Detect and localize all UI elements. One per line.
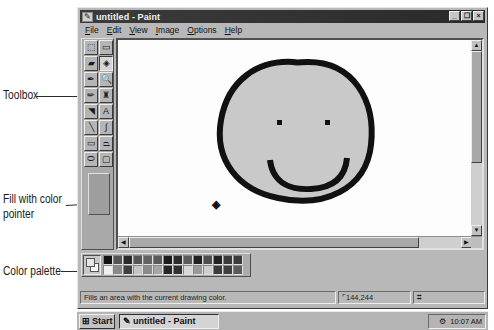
pencil-tool[interactable]: ✏ [84, 88, 98, 103]
toolbox: ⬚ ▭ ▰ ◈ ✒ 🔍 ✏ ♜ ◥ A ╲ ∫ ▭ ⏢ ⬭ ▢ [81, 38, 114, 250]
tool-options-box[interactable] [88, 173, 110, 215]
color-swatch[interactable] [193, 255, 203, 265]
maximize-button[interactable]: ❐ [461, 11, 472, 21]
rectangle-tool[interactable]: ▭ [84, 136, 98, 151]
status-bar: Fills an area with the current drawing c… [80, 291, 485, 305]
color-swatch[interactable] [223, 255, 233, 265]
color-swatch[interactable] [113, 255, 123, 265]
scrollbar-corner [471, 237, 482, 248]
taskbar: ⊞ Start ✎ untitled - Paint ⚙ 10:07 AM [77, 311, 488, 330]
ellipse-tool[interactable]: ⬭ [84, 152, 98, 167]
brush-tool[interactable]: ♜ [99, 88, 113, 103]
text-tool[interactable]: A [99, 104, 113, 119]
callout-fill-line1: Fill with color [3, 192, 62, 207]
drawing-canvas[interactable]: ◈ [118, 40, 472, 236]
color-swatch[interactable] [113, 265, 123, 275]
color-swatch[interactable] [153, 265, 163, 275]
menu-file[interactable]: File [85, 25, 99, 35]
windows-logo-icon: ⊞ [82, 315, 90, 328]
menu-bar: File Edit View Image Options Help [80, 24, 485, 36]
color-swatch[interactable] [123, 255, 133, 265]
callout-toolbox: Toolbox [3, 88, 38, 103]
foreground-color-swatch [86, 258, 95, 267]
color-swatch[interactable] [193, 265, 203, 275]
color-swatch[interactable] [213, 255, 223, 265]
swatch-grid [103, 255, 243, 275]
fill-with-color-cursor: ◈ [212, 198, 220, 211]
vertical-scrollbar[interactable]: ▲ ▼ [471, 40, 482, 236]
color-swatch[interactable] [233, 265, 243, 275]
airbrush-tool[interactable]: ◥ [84, 104, 98, 119]
title-bar[interactable]: ✎ untitled - Paint _ ❐ × [80, 10, 485, 23]
line-tool[interactable]: ╲ [84, 120, 98, 135]
minimize-button[interactable]: _ [449, 11, 460, 21]
status-coordinates: ⌜144,244 [338, 291, 411, 304]
rounded-rectangle-tool[interactable]: ▢ [99, 152, 113, 167]
color-swatch[interactable] [153, 255, 163, 265]
close-button[interactable]: × [473, 11, 484, 21]
menu-view[interactable]: View [129, 25, 147, 35]
magnifier-tool[interactable]: 🔍 [99, 72, 113, 87]
taskbar-paint-button[interactable]: ✎ untitled - Paint [119, 314, 219, 329]
callout-palette: Color palette [3, 264, 61, 279]
select-tool[interactable]: ▭ [99, 40, 113, 55]
menu-image[interactable]: Image [156, 25, 180, 35]
color-palette [81, 253, 251, 277]
eraser-tool[interactable]: ▰ [84, 56, 98, 71]
polygon-tool[interactable]: ⏢ [99, 136, 113, 151]
paint-icon: ✎ [82, 12, 93, 22]
color-swatch[interactable] [103, 265, 113, 275]
color-swatch[interactable] [123, 265, 133, 275]
system-tray: ⚙ 10:07 AM [428, 314, 486, 329]
smiley-face-drawing [118, 40, 472, 236]
selection-size-icon: ⌗ [417, 293, 422, 302]
start-button[interactable]: ⊞ Start [79, 314, 115, 329]
color-swatch[interactable] [203, 255, 213, 265]
color-swatch[interactable] [203, 265, 213, 275]
color-swatch[interactable] [103, 255, 113, 265]
status-selection-size: ⌗ [413, 291, 485, 304]
callout-toolbox-line [36, 96, 82, 97]
color-swatch[interactable] [213, 265, 223, 275]
color-swatch[interactable] [133, 255, 143, 265]
scroll-down-button[interactable]: ▼ [471, 225, 482, 236]
curve-tool[interactable]: ∫ [99, 120, 113, 135]
color-swatch[interactable] [183, 255, 193, 265]
horizontal-scroll-thumb[interactable] [129, 237, 419, 248]
menu-help[interactable]: Help [225, 25, 242, 35]
color-swatch[interactable] [163, 255, 173, 265]
tray-icon[interactable]: ⚙ [439, 315, 446, 328]
current-colors-indicator [83, 255, 101, 275]
paint-icon: ✎ [123, 315, 131, 328]
color-swatch[interactable] [173, 255, 183, 265]
menu-options[interactable]: Options [187, 25, 216, 35]
color-swatch[interactable] [183, 265, 193, 275]
color-swatch[interactable] [173, 265, 183, 275]
scroll-left-button[interactable]: ◀ [118, 237, 129, 248]
paint-window: ✎ untitled - Paint _ ❐ × File Edit View … [77, 7, 488, 309]
color-swatch[interactable] [143, 255, 153, 265]
callout-fill-line2: pointer [3, 207, 34, 222]
fill-with-color-tool[interactable]: ◈ [99, 56, 113, 71]
clock: 10:07 AM [450, 315, 482, 328]
horizontal-scrollbar[interactable]: ◀ ▶ [118, 237, 472, 248]
canvas-frame: ◈ ▲ ▼ ◀ ▶ [116, 38, 484, 250]
vertical-scroll-thumb[interactable] [471, 51, 482, 163]
color-swatch[interactable] [163, 265, 173, 275]
status-help-text: Fills an area with the current drawing c… [80, 291, 336, 304]
window-title: untitled - Paint [96, 12, 160, 22]
free-form-select-tool[interactable]: ⬚ [84, 40, 98, 55]
color-swatch[interactable] [233, 255, 243, 265]
pick-color-tool[interactable]: ✒ [84, 72, 98, 87]
menu-edit[interactable]: Edit [107, 25, 122, 35]
color-swatch[interactable] [223, 265, 233, 275]
scroll-up-button[interactable]: ▲ [471, 40, 482, 51]
color-swatch[interactable] [133, 265, 143, 275]
color-swatch[interactable] [143, 265, 153, 275]
